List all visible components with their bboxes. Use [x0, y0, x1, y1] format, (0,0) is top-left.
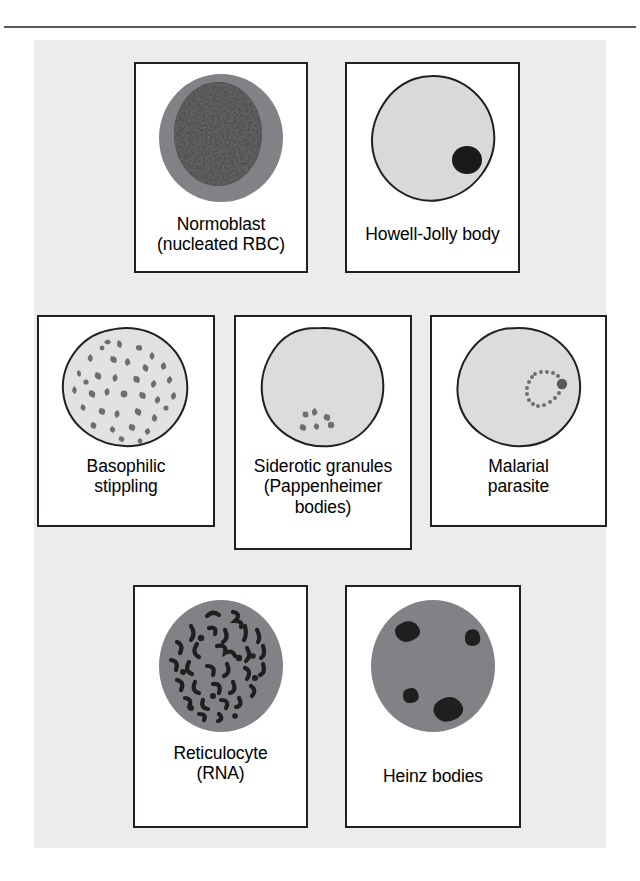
card-siderotic[interactable]: Siderotic granules (Pappenheimer bodies)	[234, 315, 412, 550]
reticulocyte-cell-icon	[147, 596, 295, 736]
card-label-basophilic: Basophilic stippling	[87, 456, 166, 497]
card-heinz[interactable]: Heinz bodies	[345, 585, 521, 828]
siderotic-granules-cell-icon	[253, 324, 393, 450]
card-label-howell-jolly: Howell-Jolly body	[365, 224, 499, 244]
row-middle: Basophilic stippling Siderotic granules …	[34, 315, 606, 555]
card-normoblast[interactable]: Normoblast (nucleated RBC)	[134, 62, 308, 273]
top-horizontal-rule	[4, 26, 636, 28]
figure-panel: Normoblast (nucleated RBC) Howell-Jolly …	[34, 40, 606, 848]
basophilic-stippling-cell-icon	[56, 324, 196, 450]
row-top: Normoblast (nucleated RBC) Howell-Jolly …	[34, 51, 606, 273]
card-basophilic[interactable]: Basophilic stippling	[37, 315, 215, 527]
figure-root: Normoblast (nucleated RBC) Howell-Jolly …	[0, 0, 640, 881]
card-label-normoblast: Normoblast (nucleated RBC)	[157, 214, 285, 255]
howell-jolly-body-cell-icon	[358, 70, 508, 210]
heinz-bodies-cell-icon	[359, 596, 507, 736]
card-howell-jolly[interactable]: Howell-Jolly body	[345, 62, 520, 273]
card-label-malarial: Malarial parasite	[488, 456, 549, 497]
card-malarial[interactable]: Malarial parasite	[430, 315, 607, 527]
row-bottom: Reticulocyte (RNA) Heinz bodies	[34, 585, 606, 838]
card-label-siderotic: Siderotic granules (Pappenheimer bodies)	[254, 456, 392, 517]
card-label-reticulocyte: Reticulocyte (RNA)	[173, 743, 267, 784]
normoblast-cell-icon	[146, 70, 296, 210]
card-label-heinz: Heinz bodies	[383, 766, 483, 786]
card-reticulocyte[interactable]: Reticulocyte (RNA)	[133, 585, 308, 828]
malarial-parasite-cell-icon	[449, 324, 589, 450]
